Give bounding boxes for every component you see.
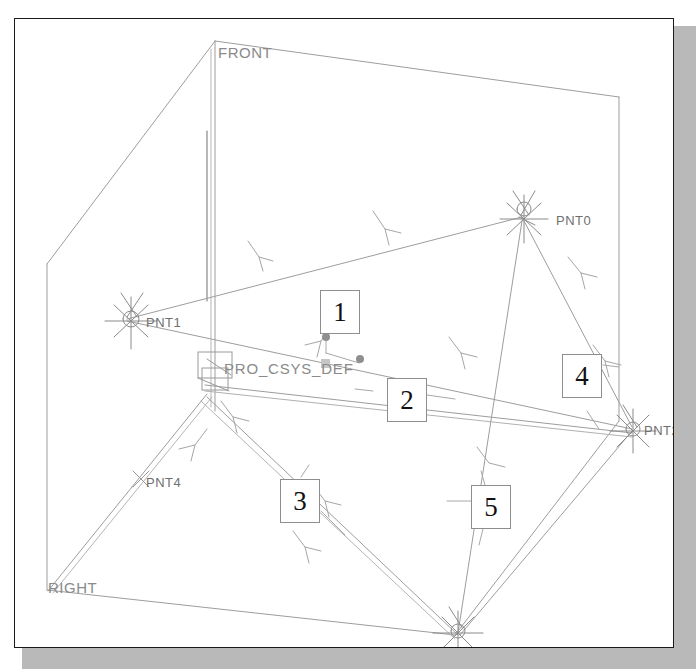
point-label-pnt0: PNT0 bbox=[556, 213, 591, 228]
annotation-callout-4[interactable]: 4 bbox=[562, 354, 602, 398]
annotation-callout-1[interactable]: 1 bbox=[320, 290, 360, 334]
datum-plane-label-front: FRONT bbox=[218, 44, 272, 61]
annotation-callout-5[interactable]: 5 bbox=[471, 485, 511, 529]
wire-pnt4-pnt3-b bbox=[201, 401, 455, 639]
wire-pnt2-pnt3 bbox=[460, 431, 632, 635]
wire-pnt1-pnt2 bbox=[127, 321, 632, 429]
cad-canvas[interactable]: FRONT RIGHT PRO_CSYS_DEF PNT0 PNT1 PNT2 … bbox=[14, 18, 674, 648]
datum-plane-label-right: RIGHT bbox=[48, 579, 97, 596]
wire-bottom-left-edge bbox=[47, 590, 455, 635]
screenshot-root: FRONT RIGHT PRO_CSYS_DEF PNT0 PNT1 PNT2 … bbox=[0, 0, 696, 669]
point-label-pnt2: PNT2 bbox=[644, 423, 674, 438]
wire-upper-left-diagonal bbox=[47, 41, 215, 264]
point-label-pnt1: PNT1 bbox=[146, 315, 181, 330]
annotation-callout-2[interactable]: 2 bbox=[387, 378, 427, 422]
datum-point-pnt0 bbox=[500, 191, 548, 243]
wire-pnt4-pnt3 bbox=[207, 397, 458, 635]
annotation-callout-3[interactable]: 3 bbox=[280, 479, 320, 523]
wire-top-edge bbox=[215, 41, 619, 97]
datum-right-line-a bbox=[48, 394, 207, 591]
coordinate-system-label: PRO_CSYS_DEF bbox=[224, 360, 354, 377]
datum-point-pnt3 bbox=[433, 607, 483, 647]
point-label-pnt4: PNT4 bbox=[146, 475, 181, 490]
wire-pnt0-pnt3 bbox=[458, 221, 522, 633]
datum-right-line-b bbox=[53, 397, 212, 593]
